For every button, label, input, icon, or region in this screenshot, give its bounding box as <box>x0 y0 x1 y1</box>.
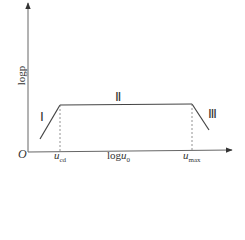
region-label-2: Ⅱ <box>115 90 121 103</box>
x-axis-label-sub: 0 <box>127 156 131 164</box>
x-axis-label: logu0 <box>107 150 130 164</box>
y-axis-label: logp <box>16 66 27 86</box>
region-label-3: Ⅲ <box>208 107 217 120</box>
x-axis-label-text: log <box>107 149 121 161</box>
tick-ucd-sub: cd <box>60 156 67 164</box>
tick-label-ucd: ucd <box>54 150 66 164</box>
origin-label: O <box>18 148 27 160</box>
region-label-1: Ⅰ <box>40 110 44 123</box>
curve-region-3 <box>192 104 209 130</box>
tick-label-umax: umax <box>183 150 201 164</box>
tick-umax-sub: max <box>189 156 201 164</box>
curve-region-2 <box>60 104 192 105</box>
